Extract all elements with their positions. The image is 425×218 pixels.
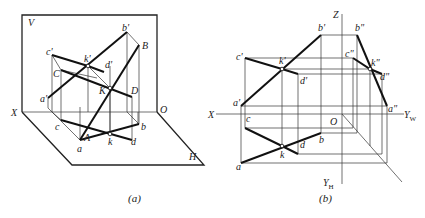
label-b-b: b xyxy=(319,134,324,145)
label-c-dprime: c" xyxy=(345,48,354,59)
label-c-prime-b: c' xyxy=(236,51,243,62)
label-d-b: d xyxy=(300,139,306,150)
label-V: V xyxy=(28,17,36,28)
label-d-prime: d' xyxy=(105,59,113,70)
label-k: k xyxy=(108,136,113,147)
label-c-prime: c' xyxy=(46,46,53,57)
label-Yh: YH xyxy=(323,177,334,191)
label-d-dprime: d" xyxy=(380,71,390,82)
h-plane xyxy=(22,112,204,165)
label-d: d xyxy=(131,136,137,147)
label-c: c xyxy=(55,121,60,132)
label-Z: Z xyxy=(333,9,339,20)
label-b-prime-b: b' xyxy=(318,22,326,33)
label-K: K xyxy=(98,85,107,96)
label-X-b: X xyxy=(207,109,215,120)
label-k-prime-b: k' xyxy=(279,55,286,66)
label-Yw: YW xyxy=(404,109,417,123)
label-H: H xyxy=(188,151,197,162)
label-k-dprime: k" xyxy=(371,57,380,68)
label-a-dprime: a" xyxy=(388,103,398,114)
line-cd xyxy=(61,120,132,140)
caption-a: (a) xyxy=(128,192,141,205)
figure-b: Z X O YW YH b' b" c' k' d' c" k" d" a' a… xyxy=(207,9,417,205)
label-b-dprime: b" xyxy=(355,22,365,33)
label-a: a xyxy=(77,143,82,154)
caption-b: (b) xyxy=(319,192,332,205)
label-O-b: O xyxy=(330,116,337,127)
label-O-a: O xyxy=(160,104,167,115)
label-b: b xyxy=(141,121,146,132)
figure-a: V H X O b' B c' k' d' C K D a' c A b k d… xyxy=(10,15,204,205)
label-C: C xyxy=(53,68,60,79)
label-a-prime-b: a' xyxy=(233,97,241,108)
label-B: B xyxy=(142,40,148,51)
label-b-prime: b' xyxy=(122,22,130,33)
label-k-prime: k' xyxy=(84,53,91,64)
line-c-prime-d-prime-b xyxy=(245,58,298,74)
diagonal-45 xyxy=(342,114,402,182)
line-cd-b xyxy=(245,128,298,154)
label-X-a: X xyxy=(10,107,18,118)
label-D: D xyxy=(130,85,139,96)
label-A: A xyxy=(83,132,91,143)
label-k-b: k xyxy=(280,149,285,160)
label-a-b: a xyxy=(236,161,241,172)
label-a-prime: a' xyxy=(40,93,48,104)
label-d-prime-b: d' xyxy=(300,75,308,86)
label-c-b: c xyxy=(246,113,251,124)
projection-diagram: V H X O b' B c' k' d' C K D a' c A b k d… xyxy=(0,0,425,218)
